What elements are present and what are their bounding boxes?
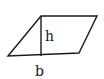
base-label: b bbox=[35, 63, 44, 79]
height-label: h bbox=[45, 28, 54, 44]
parallelogram-diagram: h b bbox=[0, 0, 104, 79]
diagram-svg: h b bbox=[0, 0, 104, 79]
